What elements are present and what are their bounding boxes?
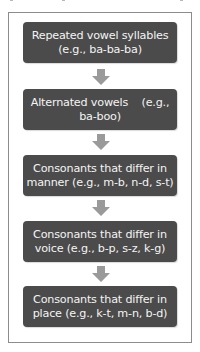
cropped-caption-fragment: [0, 0, 200, 2]
down-arrow-icon: [92, 200, 110, 216]
down-arrow-icon: [92, 134, 110, 150]
step-alternated-vowels: Alternated vowels (e.g., ba-boo): [23, 89, 177, 130]
step-text-line2: ba-boo): [31, 110, 170, 124]
step-text-line1: Consonants that differ in: [33, 293, 168, 307]
step-text-line2: voice (e.g., b-p, s-z, k-g): [33, 242, 167, 256]
step-consonants-manner: Consonants that differ in manner (e.g., …: [23, 155, 177, 196]
step-text-line2: manner (e.g., m-b, n-d, s-t): [26, 176, 173, 190]
step-text-line1: Consonants that differ in: [26, 162, 173, 176]
step-repeated-vowels: Repeated vowel syllables (e.g., ba-ba-ba…: [23, 22, 177, 63]
step-text-line2: place (e.g., k-t, m-n, b-d): [33, 307, 168, 321]
step-text-line1: Alternated vowels (e.g.,: [31, 96, 170, 110]
down-arrow-icon: [92, 69, 110, 85]
step-text-line1: Repeated vowel syllables: [32, 29, 169, 43]
down-arrow-icon: [92, 266, 110, 282]
step-text-line1: Consonants that differ in: [33, 228, 167, 242]
step-consonants-place: Consonants that differ in place (e.g., k…: [23, 286, 177, 327]
step-text-line2: (e.g., ba-ba-ba): [32, 43, 169, 57]
step-consonants-voice: Consonants that differ in voice (e.g., b…: [23, 221, 177, 262]
